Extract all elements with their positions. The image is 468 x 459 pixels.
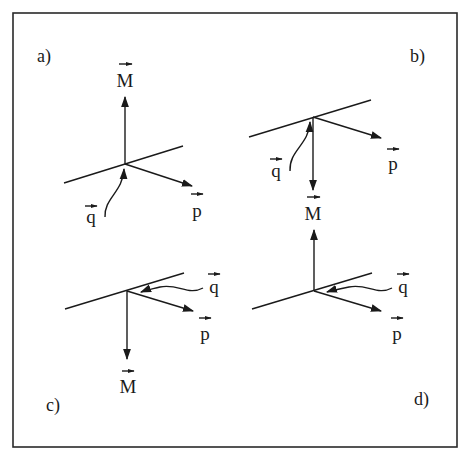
svg-text:q: q — [209, 276, 219, 297]
svg-text:p: p — [388, 153, 398, 174]
q-label: q — [270, 159, 282, 181]
svg-text:p: p — [200, 323, 210, 344]
panel-label: a) — [37, 46, 51, 67]
svg-text:M: M — [305, 203, 322, 224]
svg-text:q: q — [86, 206, 96, 227]
svg-text:M: M — [117, 70, 134, 91]
svg-text:M: M — [120, 376, 137, 397]
svg-text:q: q — [271, 160, 281, 181]
svg-text:q: q — [398, 276, 408, 297]
q-label: q — [85, 206, 97, 227]
figure-frame — [13, 13, 457, 447]
q-label: q — [397, 274, 409, 297]
panel-label: c) — [46, 395, 60, 416]
diagram-canvas: a) M p q b) M p q — [0, 0, 468, 459]
panel-label: d) — [414, 389, 429, 410]
panel-label: b) — [410, 46, 425, 67]
q-label: q — [208, 274, 220, 297]
p-label: p — [387, 149, 399, 174]
svg-text:p: p — [392, 323, 402, 344]
svg-text:p: p — [192, 200, 202, 221]
